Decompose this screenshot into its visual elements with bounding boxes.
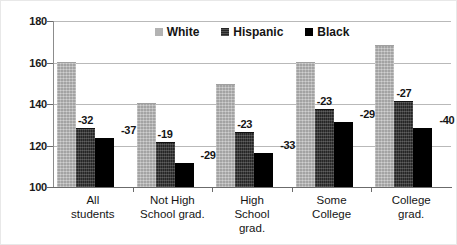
bar-black: -40 bbox=[413, 128, 432, 187]
bar-white bbox=[375, 45, 394, 187]
category-separator bbox=[292, 187, 293, 192]
legend-swatch-icon bbox=[155, 28, 163, 36]
bar-black: -33 bbox=[254, 153, 273, 187]
category-separator bbox=[371, 187, 372, 192]
legend-swatch-icon bbox=[305, 28, 313, 36]
bar-group: -23-29 bbox=[292, 21, 372, 187]
bar-group-bars: -23-29 bbox=[292, 21, 372, 187]
bar-hispanic: -27 bbox=[394, 101, 413, 187]
bar-group-bars: -23-33 bbox=[212, 21, 292, 187]
x-axis-label: SomeCollege bbox=[292, 193, 372, 235]
bar-hispanic: -19 bbox=[156, 142, 175, 187]
bar-group: -19-29 bbox=[133, 21, 213, 187]
chart-legend: White Hispanic Black bbox=[53, 25, 451, 39]
legend-item-hispanic: Hispanic bbox=[221, 25, 283, 39]
bar-value-label: -32 bbox=[78, 114, 93, 126]
bar-value-label: -40 bbox=[439, 114, 454, 126]
y-axis-tick-label: 100 bbox=[5, 181, 47, 193]
category-separator bbox=[212, 187, 213, 192]
bar-white bbox=[57, 62, 76, 188]
x-axis-label: Not HighSchool grad. bbox=[133, 193, 213, 235]
x-axis-line bbox=[53, 187, 452, 188]
legend-item-white: White bbox=[155, 25, 200, 39]
legend-swatch-icon bbox=[221, 28, 229, 36]
bar-group-bars: -32-37 bbox=[53, 21, 133, 187]
y-axis-tick-label: 140 bbox=[5, 98, 47, 110]
bar-value-label: -23 bbox=[237, 118, 252, 130]
bar-black: -29 bbox=[175, 163, 194, 187]
category-separator bbox=[133, 187, 134, 192]
legend-label: Black bbox=[317, 25, 349, 39]
legend-item-black: Black bbox=[305, 25, 349, 39]
x-axis-labels: AllstudentsNot HighSchool grad.HighSchoo… bbox=[53, 193, 451, 235]
bar-white bbox=[216, 84, 235, 187]
bar-value-label: -19 bbox=[158, 128, 173, 140]
bar-chart: 180 160 140 120 100 White Hispanic Black bbox=[0, 0, 457, 245]
bar-black: -29 bbox=[334, 122, 353, 187]
legend-label: Hispanic bbox=[233, 25, 283, 39]
bar-hispanic: -23 bbox=[235, 132, 254, 187]
bar-group: -32-37 bbox=[53, 21, 133, 187]
bar-black: -37 bbox=[95, 138, 114, 187]
bar-value-label: -23 bbox=[317, 95, 332, 107]
y-axis-tick-label: 180 bbox=[5, 15, 47, 27]
y-axis-tick-label: 120 bbox=[5, 140, 47, 152]
bar-group: -23-33 bbox=[212, 21, 292, 187]
bar-white bbox=[137, 103, 156, 187]
x-axis-label: Allstudents bbox=[53, 193, 133, 235]
x-axis-label: Collegegrad. bbox=[371, 193, 451, 235]
bar-hispanic: -23 bbox=[315, 109, 334, 187]
y-axis-labels: 180 160 140 120 100 bbox=[1, 1, 47, 245]
bar-groups: -32-37-19-29-23-33-23-29-27-40 bbox=[53, 21, 451, 187]
bar-group: -27-40 bbox=[371, 21, 451, 187]
bar-group-bars: -27-40 bbox=[371, 21, 451, 187]
bar-hispanic: -32 bbox=[76, 128, 95, 187]
bar-white bbox=[296, 62, 315, 188]
bar-value-label: -27 bbox=[396, 87, 411, 99]
x-axis-label: HighSchoolgrad. bbox=[212, 193, 292, 235]
y-axis-tick-label: 160 bbox=[5, 57, 47, 69]
legend-label: White bbox=[167, 25, 200, 39]
bar-group-bars: -19-29 bbox=[133, 21, 213, 187]
